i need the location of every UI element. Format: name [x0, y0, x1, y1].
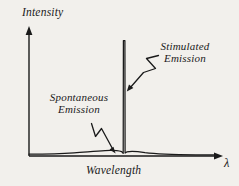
y-axis-arrowhead [26, 26, 33, 35]
x-axis-arrowhead [214, 153, 223, 160]
stimulated-emission-label-line1: Stimulated [160, 40, 209, 52]
stimulated-emission-label: Stimulated Emission [154, 41, 216, 64]
x-axis-label: Wavelength [86, 164, 141, 176]
y-axis-label: Intensity [22, 6, 63, 18]
spontaneous-emission-label: Spontaneous Emission [46, 92, 112, 115]
spontaneous-emission-arrow [92, 124, 114, 151]
stimulated-emission-label-line2: Emission [154, 53, 216, 65]
spontaneous-emission-label-line2: Emission [46, 104, 112, 116]
x-axis-lambda-symbol: λ [224, 157, 230, 170]
emission-spectrum-figure: Intensity Wavelength λ Spontaneous Emiss… [0, 0, 239, 186]
spectrum-plot-svg [0, 0, 239, 186]
spontaneous-emission-label-line1: Spontaneous [50, 91, 108, 103]
